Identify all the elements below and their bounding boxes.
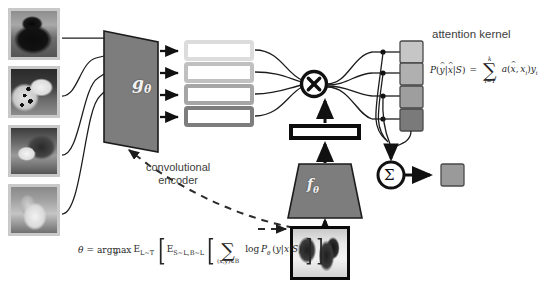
embedding-bar-4 bbox=[186, 108, 252, 125]
embedding-bars bbox=[186, 42, 252, 125]
sum-symbol: Σ bbox=[384, 166, 395, 184]
convolutional-encoder-label: convolutional encoder bbox=[146, 161, 210, 186]
conv-encoder-line-1: convolutional bbox=[146, 161, 210, 173]
support-encoder-shape bbox=[104, 31, 158, 152]
support-image-1 bbox=[8, 8, 60, 60]
support-image-4 bbox=[8, 184, 60, 236]
output-square bbox=[441, 164, 464, 186]
attention-square-3 bbox=[400, 86, 423, 108]
support-image-3 bbox=[8, 125, 60, 177]
multiply-to-attention-links bbox=[327, 52, 372, 119]
conv-encoder-line-2: encoder bbox=[158, 174, 198, 186]
embedding-bar-3 bbox=[186, 86, 252, 103]
support-to-encoder-links bbox=[62, 38, 104, 214]
matching-networks-figure: gθ fθ Σ attention kernel convolutional e… bbox=[0, 0, 541, 294]
support-image-2 bbox=[8, 66, 60, 118]
attention-square-4 bbox=[400, 109, 423, 131]
attention-squares bbox=[400, 41, 423, 131]
multiply-node bbox=[302, 72, 327, 97]
objective-formula: θ = argmaxθ EL~T [ ES~L,B~L [ . ∑ (x,y)∈… bbox=[78, 236, 326, 264]
attention-kernel-formula: P(^y|^x|S) = k ∑ i=1 a(^x, xi)yi bbox=[430, 56, 538, 84]
bars-to-multiply-links bbox=[255, 50, 302, 116]
encoder-to-bars-arrows bbox=[160, 51, 178, 117]
attention-square-2 bbox=[400, 63, 423, 85]
attention-square-1 bbox=[400, 41, 423, 63]
embedding-bar-1 bbox=[186, 42, 252, 59]
query-encoder-shape bbox=[288, 164, 362, 218]
query-embedding-bar-inner bbox=[293, 128, 357, 136]
embedding-bar-2 bbox=[186, 64, 252, 81]
attention-kernel-label: attention kernel bbox=[432, 28, 511, 40]
